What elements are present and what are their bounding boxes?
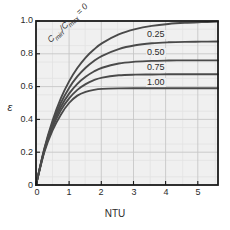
ytick-label-0: 0 — [8, 181, 33, 190]
effectiveness-ntu-chart: 1.0 0.8 0.6 0.4 0.2 0 0 1 2 3 4 5 NTU ε … — [0, 0, 230, 230]
y-axis-title: ε — [2, 101, 18, 113]
curve-label-0.75: 0.75 — [146, 63, 166, 72]
xtick-label-4: 4 — [160, 188, 172, 197]
curve-label-0.25: 0.25 — [146, 30, 166, 39]
xtick-label-2: 2 — [95, 188, 107, 197]
xtick-label-3: 3 — [128, 188, 140, 197]
ytick-label-0.2: 0.2 — [8, 148, 33, 157]
xtick-label-0: 0 — [31, 188, 43, 197]
ytick-label-0.8: 0.8 — [8, 49, 33, 58]
ytick-label-0.4: 0.4 — [8, 115, 33, 124]
xtick-label-1: 1 — [63, 188, 75, 197]
x-axis-title: NTU — [0, 208, 230, 219]
ytick-label-0.6: 0.6 — [8, 82, 33, 91]
curve-label-0.50: 0.50 — [146, 48, 166, 57]
curve-label-1.00: 1.00 — [146, 78, 166, 87]
xtick-label-5: 5 — [192, 188, 204, 197]
ytick-label-1.0: 1.0 — [8, 16, 33, 25]
